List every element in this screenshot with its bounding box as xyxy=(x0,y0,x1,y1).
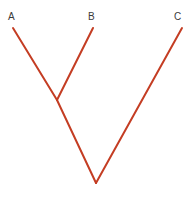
taxon-label-c: C xyxy=(174,12,181,22)
cladogram-canvas xyxy=(0,0,195,199)
taxon-label-b: B xyxy=(88,12,95,22)
cladogram-figure: A B C xyxy=(0,0,195,199)
taxon-label-a: A xyxy=(8,12,15,22)
figure-background xyxy=(0,0,195,199)
